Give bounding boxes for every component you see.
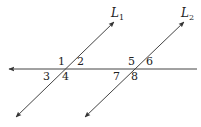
angle-label-2: 2	[77, 55, 84, 68]
angle-label-8: 8	[131, 70, 138, 83]
angle-label-7: 7	[113, 70, 120, 83]
line-label-l2: L2	[180, 6, 194, 22]
parallel-lines-diagram: L1L212345678	[0, 0, 201, 127]
angle-label-1: 1	[58, 55, 65, 68]
angle-label-5: 5	[128, 55, 135, 68]
angle-label-4: 4	[62, 70, 69, 83]
angle-label-3: 3	[43, 70, 50, 83]
line-label-l1: L1	[110, 6, 124, 22]
angle-label-6: 6	[146, 55, 153, 68]
